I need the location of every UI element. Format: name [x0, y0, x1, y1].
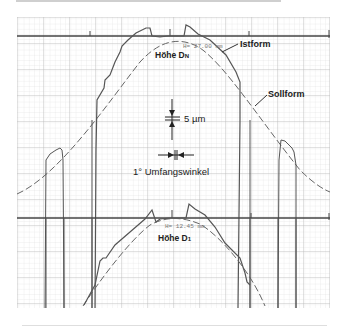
label-sollform: Sollform: [268, 89, 305, 99]
height-d1-readout: H= 12.45 mm: [165, 223, 205, 230]
label-hoehe-dn: Höhe DN: [155, 50, 189, 60]
label-hoehe-d1: Höhe D1: [158, 233, 192, 243]
label-istform: Istform: [240, 39, 271, 49]
label-umfangswinkel: 1° Umfangswinkel: [133, 166, 209, 177]
height-dn-readout: H= 27.00 mm: [183, 43, 223, 50]
form-profile-diagram: H= 27.00 mm Höhe DN Istform Sollform 5 µ…: [0, 0, 350, 327]
figure-frame: H= 27.00 mm Höhe DN Istform Sollform 5 µ…: [0, 0, 350, 327]
label-5-um: 5 µm: [184, 113, 205, 124]
